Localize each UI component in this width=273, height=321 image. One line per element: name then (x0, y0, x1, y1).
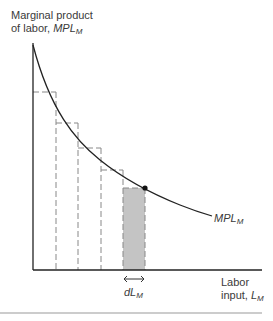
shaded-increment-area (123, 188, 145, 270)
x-axis-label: Labor input, LM (221, 276, 264, 305)
double-arrow-icon (124, 276, 144, 282)
point-marker (142, 185, 147, 190)
y-axis-label: Marginal product of labor, MPLM (11, 9, 93, 38)
curve-label: MPLM (214, 212, 243, 228)
mpl-diagram (0, 0, 273, 321)
increment-label: dLM (124, 286, 143, 302)
